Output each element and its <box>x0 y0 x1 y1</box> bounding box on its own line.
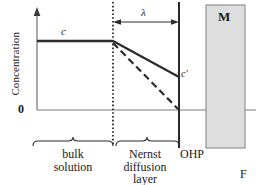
bulk-solution-brace <box>33 137 113 146</box>
concentration-gradient-solid <box>113 41 179 77</box>
concentration-profile-figure: Concentration 0 c c′ λ M OHP bulk soluti… <box>0 0 256 185</box>
nernst-layer-brace <box>116 137 179 146</box>
nernst-line-3: layer <box>113 173 177 185</box>
nernst-diffusion-layer-region-label: Nernst diffusion layer <box>113 148 177 185</box>
bulk-solution-line-1: bulk <box>38 148 108 161</box>
bulk-solution-region-label: bulk solution <box>38 148 108 173</box>
ohp-label: OHP <box>180 148 204 161</box>
lambda-arrow-right-head <box>171 19 179 25</box>
nernst-line-1: Nernst <box>113 148 177 161</box>
surface-concentration-label: c′ <box>181 69 188 80</box>
metal-electrode-label: M <box>218 10 230 24</box>
y-axis-arrowhead <box>34 7 41 16</box>
origin-label: 0 <box>18 103 24 116</box>
metal-electrode-block <box>206 5 245 148</box>
lambda-arrow-left-head <box>113 19 121 25</box>
diffusion-layer-thickness-label: λ <box>141 7 146 19</box>
concentration-gradient-dashed <box>113 43 178 109</box>
figure-caption-label: F <box>240 168 247 181</box>
bulk-concentration-label: c <box>61 26 66 38</box>
y-axis-title: Concentration <box>10 21 22 107</box>
bulk-solution-line-2: solution <box>38 161 108 174</box>
